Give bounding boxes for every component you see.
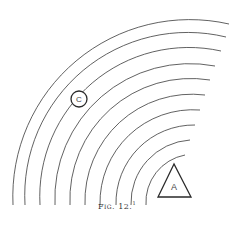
arc-2 (25, 32, 226, 205)
arc-5 (70, 78, 210, 205)
target-c: C (71, 91, 87, 107)
source-a: A (158, 164, 191, 197)
figure-caption: Fig. 12.1 (0, 200, 234, 211)
arc-3 (40, 47, 221, 205)
footnote-mark: 1 (132, 200, 136, 206)
caption-text: Fig. 12. (98, 202, 133, 211)
source-label: A (171, 182, 177, 192)
concentric-arcs-diagram: A C (0, 0, 234, 226)
triangle-icon (158, 164, 191, 197)
arc-4 (55, 64, 215, 205)
target-label: C (76, 95, 82, 104)
wave-arcs (13, 20, 229, 205)
